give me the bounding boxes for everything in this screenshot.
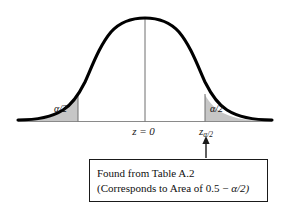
critical-value-subscript: α/2: [203, 130, 213, 139]
left-tail-area-label: α/2: [54, 104, 67, 114]
callout-line-2-alpha: α/2): [228, 182, 249, 194]
right-tail-area-label: α/2: [210, 104, 223, 114]
normal-distribution-figure: α/2 α/2 z = 0 zα/2 Found from Table A.2 …: [0, 0, 287, 213]
callout-line-2-prefix: (Corresponds to Area of 0.5: [97, 182, 222, 194]
callout-line-2: (Corresponds to Area of 0.5 − α/2): [97, 181, 267, 196]
callout-line-1: Found from Table A.2: [97, 166, 267, 181]
axis-tick-label-z-zero: z = 0: [0, 126, 287, 137]
axis-tick-label-z-alpha-half: zα/2: [186, 126, 226, 139]
callout-box: Found from Table A.2 (Corresponds to Are…: [89, 159, 268, 202]
